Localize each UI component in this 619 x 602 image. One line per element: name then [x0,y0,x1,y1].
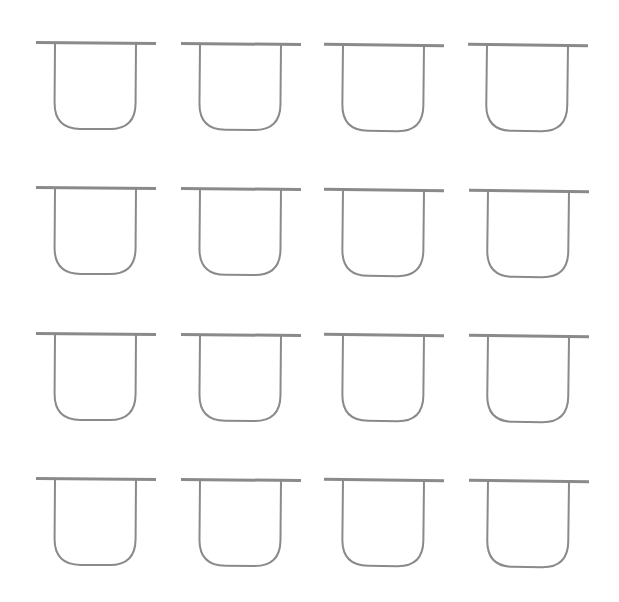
cup-body [199,189,281,276]
cup-top-bar [324,334,444,335]
cup-shape-r2-c2 [181,187,301,279]
cup-shape-r1-c4 [468,43,588,135]
cup-shape-r3-c1 [36,332,156,424]
cup-icon [324,478,444,570]
cup-body [54,188,136,275]
cup-shape-r2-c4 [469,189,589,281]
cup-icon [181,333,301,425]
cup-body [342,480,424,567]
cup-icon [181,478,301,570]
cup-body [54,43,136,130]
cup-top-bar [324,44,444,45]
cup-shape-r4-c2 [181,478,301,570]
cup-body [199,44,281,131]
cup-top-bar [36,188,156,189]
cup-body [486,44,568,131]
cup-top-bar [181,188,301,189]
cup-shape-r3-c2 [181,333,301,425]
cup-body [54,334,136,421]
cup-icon [468,43,588,135]
cup-icon [324,43,444,135]
cup-top-bar [36,43,156,44]
cup-body [487,480,569,567]
cup-top-bar [468,44,588,45]
cup-top-bar [324,479,444,480]
cup-body [342,190,424,277]
shape-grid-canvas [0,0,619,602]
cup-icon [181,187,301,279]
cup-top-bar [36,479,156,480]
cup-shape-r3-c4 [469,334,589,426]
cup-icon [324,188,444,280]
cup-top-bar [181,43,301,44]
cup-top-bar [469,480,589,481]
cup-icon [469,479,589,571]
cup-body [487,190,569,277]
cup-icon [181,42,301,134]
cup-body [199,480,281,567]
cup-top-bar [324,189,444,190]
cup-body [342,335,424,422]
cup-icon [469,189,589,281]
cup-shape-r2-c3 [324,188,444,280]
cup-top-bar [469,335,589,336]
cup-icon [36,332,156,424]
cup-icon [469,334,589,426]
cup-icon [324,333,444,425]
cup-top-bar [36,334,156,335]
cup-icon [36,477,156,569]
cup-shape-r2-c1 [36,186,156,278]
cup-body [199,335,281,422]
cup-shape-r3-c3 [324,333,444,425]
cup-top-bar [181,479,301,480]
cup-shape-r4-c4 [469,479,589,571]
cup-shape-r1-c2 [181,42,301,134]
cup-body [487,335,569,422]
cup-icon [36,41,156,133]
cup-shape-r1-c3 [324,43,444,135]
cup-top-bar [469,190,589,191]
cup-shape-r1-c1 [36,41,156,133]
cup-icon [36,186,156,278]
cup-top-bar [181,334,301,335]
cup-shape-r4-c1 [36,477,156,569]
cup-body [342,45,424,132]
cup-body [54,479,136,566]
cup-shape-r4-c3 [324,478,444,570]
